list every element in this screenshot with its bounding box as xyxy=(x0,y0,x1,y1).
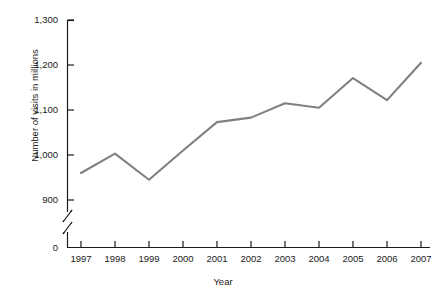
plot-area xyxy=(0,0,446,298)
axis-lines xyxy=(68,20,431,248)
axis-break-marker xyxy=(63,210,72,234)
y-axis-ticks xyxy=(68,20,75,200)
data-series-line xyxy=(81,63,421,180)
x-axis-ticks xyxy=(81,241,421,248)
line-chart: Number of visits in millions Year 1,3001… xyxy=(0,0,446,298)
